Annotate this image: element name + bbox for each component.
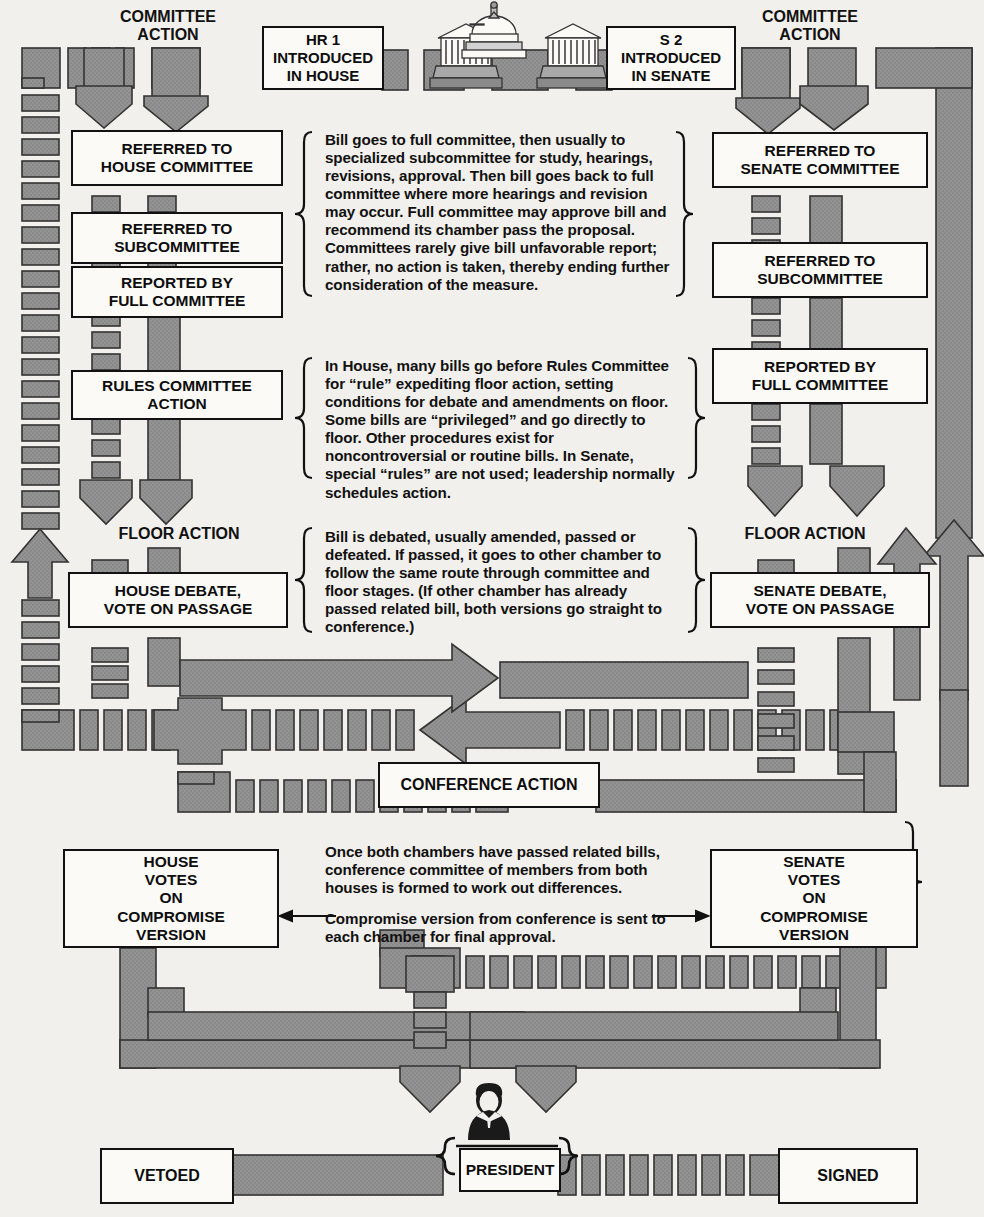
track-dash — [562, 956, 580, 988]
track-dash — [662, 710, 680, 750]
track-dash — [726, 1155, 744, 1195]
track-connector — [752, 298, 780, 314]
track-junction — [406, 956, 454, 992]
track-dash — [658, 956, 676, 988]
president-figure-icon — [468, 1083, 510, 1140]
box-rules-committee-action[interactable]: RULES COMMITTEE ACTION — [71, 370, 283, 420]
box-s2-label: S 2 INTRODUCED IN SENATE — [621, 31, 721, 84]
track-bar — [120, 1040, 524, 1068]
box-president[interactable]: PRESIDENT — [459, 1148, 561, 1192]
track-rail-right — [936, 48, 972, 538]
box-referred-subcommittee-house[interactable]: REFERRED TO SUBCOMMITTEE — [71, 212, 283, 264]
brace-floor-right — [688, 528, 705, 632]
track-dash — [706, 956, 724, 988]
box-conference-action[interactable]: CONFERENCE ACTION — [378, 762, 600, 808]
box-vetoed[interactable]: VETOED — [100, 1148, 234, 1204]
bill-to-law-diagram: COMMITTEEACTION COMMITTEEACTION HR 1 INT… — [0, 0, 984, 1217]
track-bar — [470, 1040, 880, 1068]
box-referred-subcommittee-senate-label: REFERRED TO SUBCOMMITTEE — [757, 252, 883, 289]
arrow-down-house-c — [80, 480, 132, 524]
box-referred-subcommittee-senate[interactable]: REFERRED TO SUBCOMMITTEE — [712, 242, 928, 298]
track-pipe — [148, 310, 180, 372]
track-connector — [92, 332, 120, 348]
track-connector — [752, 320, 780, 336]
track-dash — [566, 710, 584, 750]
track-dash — [582, 1155, 600, 1195]
track-dash — [490, 956, 508, 988]
track-dash — [22, 491, 59, 507]
track-bar-vetoed — [227, 1155, 443, 1195]
arrow-down-president-left — [400, 1066, 460, 1112]
track-junction-plus — [154, 698, 246, 764]
arrow-down-senate-b — [800, 86, 868, 130]
track-dash — [22, 227, 59, 243]
box-house-debate[interactable]: HOUSE DEBATE, VOTE ON PASSAGE — [68, 572, 288, 628]
box-senate-debate[interactable]: SENATE DEBATE, VOTE ON PASSAGE — [710, 572, 930, 628]
note-rules: In House, many bills go before Rules Com… — [325, 357, 677, 502]
track-dash — [276, 710, 294, 750]
track-dash — [300, 710, 318, 750]
track-dash — [514, 956, 532, 988]
track-dash — [128, 710, 146, 750]
track-dash — [22, 183, 59, 199]
track-dash — [372, 710, 390, 750]
track-bar — [470, 1012, 838, 1040]
track-connector — [148, 196, 176, 212]
track-dash — [22, 315, 59, 331]
track-dash — [754, 956, 772, 988]
track-pipe — [84, 48, 124, 88]
box-signed[interactable]: SIGNED — [778, 1148, 918, 1204]
track-pipe — [864, 752, 896, 812]
track-dash — [308, 780, 326, 812]
arrow-up-left-rail — [12, 529, 68, 598]
track-dash — [324, 710, 342, 750]
track-dash — [614, 710, 632, 750]
track-dash — [730, 956, 748, 988]
track-dash — [686, 710, 704, 750]
track-bar — [500, 662, 748, 698]
box-hr1-introduced[interactable]: HR 1 INTRODUCED IN HOUSE — [262, 26, 384, 90]
track-dash — [104, 710, 122, 750]
brace-rules-right — [688, 358, 705, 478]
track-connector — [758, 648, 794, 662]
track-pipe — [808, 48, 856, 88]
track-connector — [758, 714, 794, 728]
track-rail-right — [940, 690, 968, 786]
track-connector — [414, 992, 446, 1008]
track-dash — [466, 956, 484, 988]
track-dash — [396, 710, 414, 750]
track-connector — [752, 426, 780, 442]
arrow-left-conference — [420, 696, 560, 764]
note-conference: Once both chambers have passed related b… — [325, 843, 677, 946]
box-signed-label: SIGNED — [817, 1167, 878, 1186]
arrow-right-house-to-conference — [180, 644, 498, 712]
track-dash — [22, 403, 59, 419]
box-reported-full-committee-senate[interactable]: REPORTED BY FULL COMMITTEE — [712, 348, 928, 404]
track-dash — [252, 710, 270, 750]
box-house-votes-compromise[interactable]: HOUSE VOTES ON COMPROMISE VERSION — [63, 849, 279, 948]
track-dash — [22, 337, 59, 353]
box-referred-house-committee[interactable]: REFERRED TO HOUSE COMMITTEE — [71, 130, 283, 186]
track-dash — [356, 780, 374, 812]
track-connector — [92, 354, 120, 370]
track-connector — [752, 196, 780, 212]
track-connector — [752, 448, 780, 464]
box-senate-votes-compromise[interactable]: SENATE VOTES ON COMPROMISE VERSION — [710, 849, 918, 948]
arrow-down-house-d — [140, 480, 192, 524]
box-s2-introduced[interactable]: S 2 INTRODUCED IN SENATE — [606, 26, 736, 90]
note-committee-text: Bill goes to full committee, then usuall… — [325, 131, 672, 294]
box-referred-subcommittee-house-label: REFERRED TO SUBCOMMITTEE — [114, 220, 240, 257]
track-dash — [22, 205, 59, 221]
track-dash — [634, 956, 652, 988]
box-rules-committee-action-label: RULES COMMITTEE ACTION — [102, 377, 252, 414]
track-dash — [802, 956, 820, 988]
brace-floor-left — [295, 528, 312, 632]
track-connector — [758, 736, 794, 750]
track-dash — [638, 710, 656, 750]
track-connector — [758, 670, 794, 684]
box-referred-senate-committee[interactable]: REFERRED TO SENATE COMMITTEE — [712, 132, 928, 188]
track-corner — [178, 772, 214, 784]
box-reported-full-committee-house[interactable]: REPORTED BY FULL COMMITTEE — [71, 266, 283, 318]
brace-rules-left — [295, 358, 312, 478]
track-dash — [284, 780, 302, 812]
